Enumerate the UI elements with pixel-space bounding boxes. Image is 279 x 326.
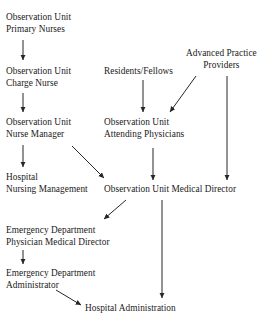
node-emergency-department-administrator: Emergency Department Administrator: [6, 268, 95, 291]
node-hospital-nursing-management: Hospital Nursing Management: [6, 172, 88, 195]
node-observation-unit-charge-nurse: Observation Unit Charge Nurse: [6, 66, 71, 89]
node-emergency-department-physician-medical-director: Emergency Department Physician Medical D…: [6, 225, 110, 248]
node-hospital-administration: Hospital Administration: [85, 303, 176, 315]
org-chart-diagram: Observation Unit Primary NursesObservati…: [0, 0, 279, 326]
edge-medical-director-to-ed-physician-medical-director: [104, 200, 126, 219]
node-advanced-practice-providers: Advanced Practice Providers: [186, 48, 257, 71]
node-residents-fellows: Residents/Fellows: [104, 66, 173, 78]
node-observation-unit-attending-physicians: Observation Unit Attending Physicians: [104, 117, 184, 140]
node-observation-unit-primary-nurses: Observation Unit Primary Nurses: [6, 12, 71, 35]
edge-advanced-practice-providers-to-attending-physicians: [170, 76, 196, 112]
node-observation-unit-nurse-manager: Observation Unit Nurse Manager: [6, 117, 71, 140]
node-observation-unit-medical-director: Observation Unit Medical Director: [104, 184, 236, 196]
edge-ed-administrator-to-hospital-administration: [56, 290, 81, 305]
